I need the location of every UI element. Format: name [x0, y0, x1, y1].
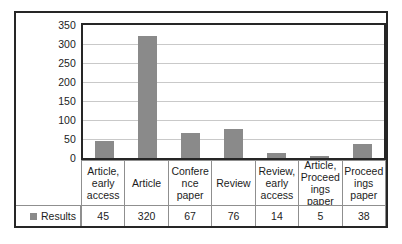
- bar[interactable]: [310, 156, 330, 158]
- chart-frame: 050100150200250300350 Article, early acc…: [14, 11, 388, 228]
- category-label-cell: Review: [211, 160, 254, 205]
- y-axis-tick-label: 300: [58, 39, 76, 50]
- bar[interactable]: [267, 153, 287, 158]
- category-label: Article, early access: [83, 165, 123, 201]
- plot-area: [81, 23, 386, 160]
- bar[interactable]: [138, 36, 158, 158]
- value-row: Results 45320677614538: [16, 205, 386, 226]
- bar-slot: [341, 25, 384, 158]
- legend-label: Results: [41, 210, 76, 222]
- category-label-cell: Article, Proceed ings paper: [298, 160, 341, 205]
- category-label: Review: [216, 177, 250, 189]
- bar[interactable]: [181, 133, 201, 158]
- bar-slot: [298, 25, 341, 158]
- y-axis-tick-label: 250: [58, 58, 76, 69]
- category-label-cell: Article: [124, 160, 167, 205]
- y-axis-tick-label: 50: [64, 134, 76, 145]
- value-cell: 5: [298, 206, 341, 226]
- category-label-cell: Review, early access: [255, 160, 298, 205]
- category-label: Confere nce paper: [170, 165, 210, 201]
- y-axis-tick-label: 350: [58, 20, 76, 31]
- category-row-corner-spacer: [16, 160, 81, 205]
- value-cell: 38: [342, 206, 386, 226]
- bar-slot: [212, 25, 255, 158]
- value-cell: 45: [81, 206, 124, 226]
- y-axis-tick-label: 100: [58, 115, 76, 126]
- category-label-cell: Proceed ings paper: [342, 160, 386, 205]
- value-cell: 67: [168, 206, 211, 226]
- category-label: Article: [132, 177, 161, 189]
- category-header-row: Article, early accessArticleConfere nce …: [16, 160, 386, 205]
- data-table: Article, early accessArticleConfere nce …: [16, 160, 386, 226]
- bar[interactable]: [224, 129, 244, 158]
- legend-color-swatch-icon: [30, 213, 37, 220]
- y-axis-tick-labels: 050100150200250300350: [16, 13, 80, 160]
- category-label: Review, early access: [257, 165, 297, 201]
- bars-layer: [83, 25, 384, 158]
- bar-slot: [83, 25, 126, 158]
- value-cell: 320: [124, 206, 167, 226]
- value-cell: 14: [255, 206, 298, 226]
- bar[interactable]: [95, 141, 115, 158]
- bar-slot: [255, 25, 298, 158]
- bar[interactable]: [353, 144, 373, 158]
- legend-entry-results[interactable]: Results: [16, 206, 81, 226]
- y-axis-tick-label: 150: [58, 96, 76, 107]
- category-label: Proceed ings paper: [344, 165, 384, 201]
- value-cell: 76: [211, 206, 254, 226]
- y-axis-tick-label: 200: [58, 77, 76, 88]
- category-label: Article, Proceed ings paper: [300, 160, 340, 205]
- bar-slot: [169, 25, 212, 158]
- bar-slot: [126, 25, 169, 158]
- category-label-cell: Confere nce paper: [168, 160, 211, 205]
- plot-block: 050100150200250300350: [16, 13, 386, 160]
- category-label-cell: Article, early access: [81, 160, 124, 205]
